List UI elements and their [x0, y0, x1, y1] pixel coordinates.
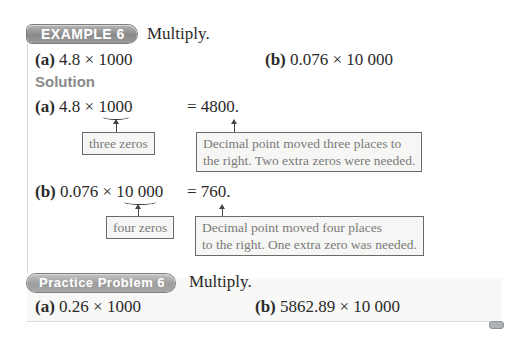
solution-b-result: = 760.: [187, 182, 231, 202]
explanation-box: Decimal point moved four places to the r…: [195, 216, 424, 256]
solution-heading: Solution: [35, 73, 95, 90]
arrow-up-icon: [234, 122, 235, 132]
solution-label: (b): [35, 182, 56, 201]
example-problem-a: (a) 4.8 × 1000: [35, 50, 132, 70]
problem-label: (b): [255, 297, 276, 316]
problem-expression: 0.076 × 10 000: [290, 50, 393, 69]
problem-label: (a): [35, 50, 55, 69]
solution-a-result: = 4800.: [187, 97, 239, 117]
arrow-up-icon: [116, 122, 117, 132]
example-instruction: Multiply.: [147, 24, 210, 44]
example-badge: EXAMPLE 6: [27, 25, 137, 43]
explanation-line: Decimal point moved three places to: [203, 135, 415, 152]
explanation-line: Decimal point moved four places: [202, 219, 417, 236]
scroll-handle[interactable]: [489, 321, 504, 329]
expression-prefix: 0.076 × 1: [60, 182, 125, 201]
zeros-note-box: three zeros: [82, 132, 155, 155]
problem-expression: 5862.89 × 10 000: [280, 297, 400, 316]
example-problem-b: (b) 0.076 × 10 000: [265, 50, 393, 70]
problem-label: (a): [35, 297, 55, 316]
explanation-line: the right. Two extra zeros were needed.: [203, 152, 415, 169]
practice-badge: Practice Problem 6: [27, 274, 175, 292]
arrow-up-icon: [222, 207, 223, 216]
practice-instruction: Multiply.: [189, 272, 252, 292]
expression-prefix: 4.8 × 1: [59, 97, 107, 116]
left-margin-rule: [27, 44, 28, 274]
practice-problem-b: (b) 5862.89 × 10 000: [255, 297, 400, 317]
practice-problem-a: (a) 0.26 × 1000: [35, 297, 141, 317]
problem-expression: 4.8 × 1000: [59, 50, 132, 69]
solution-label: (a): [35, 97, 55, 116]
arrow-up-icon: [138, 207, 139, 216]
explanation-line: to the right. One extra zero was needed.: [202, 236, 417, 253]
problem-label: (b): [265, 50, 286, 69]
zeros-note-box: four zeros: [106, 216, 174, 239]
problem-expression: 0.26 × 1000: [59, 297, 141, 316]
explanation-box: Decimal point moved three places to the …: [196, 132, 422, 172]
